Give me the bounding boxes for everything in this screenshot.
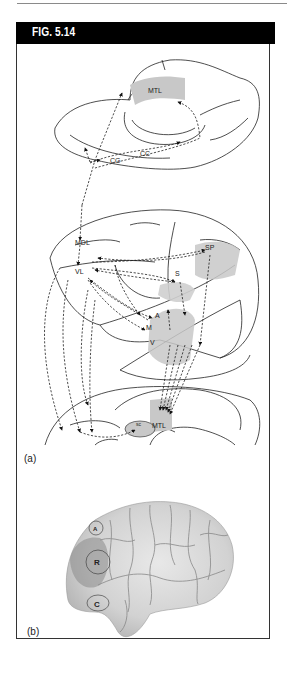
brain-label-a: A [93,526,98,532]
brain-label-r: R [94,558,100,567]
brain-label-c: C [94,600,100,609]
panel-b-brain: A R C [0,0,287,686]
panel-b-label: (b) [27,626,39,637]
